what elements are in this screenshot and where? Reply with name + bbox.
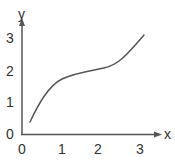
y-tick-1: 1 xyxy=(6,94,14,110)
y-axis-label: y xyxy=(18,6,25,22)
x-tick-2: 2 xyxy=(94,141,102,157)
x-tick-3: 3 xyxy=(136,141,144,157)
data-curve xyxy=(30,35,144,122)
y-axis xyxy=(19,18,25,135)
y-tick-0: 0 xyxy=(6,126,14,142)
x-axis xyxy=(21,132,162,138)
y-tick-3: 3 xyxy=(6,30,14,46)
x-tick-1: 1 xyxy=(58,141,66,157)
y-tick-2: 2 xyxy=(6,63,14,79)
x-axis-label: x xyxy=(164,126,171,142)
chart: y x 3 2 1 0 0 1 2 3 xyxy=(0,0,175,161)
x-tick-0: 0 xyxy=(18,141,26,157)
x-axis-arrow-icon xyxy=(154,132,162,138)
